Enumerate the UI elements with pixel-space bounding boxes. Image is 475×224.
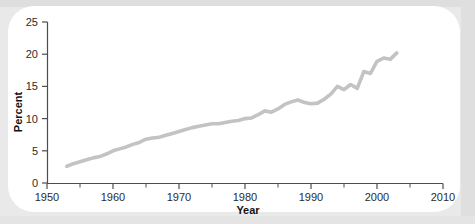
y-tick-label: 15 (26, 80, 38, 92)
line-chart: 0510152025 1950196019701980199020002010 … (0, 0, 475, 224)
y-tick-label: 10 (26, 113, 38, 125)
chart-svg: 0510152025 1950196019701980199020002010 … (0, 0, 475, 224)
y-tick-label: 25 (26, 16, 38, 28)
x-axis-title: Year (236, 204, 260, 216)
x-tick-label: 1960 (101, 191, 125, 203)
x-axis-ticks (47, 184, 443, 190)
y-axis-title: Percent (12, 91, 24, 132)
x-tick-label: 1950 (35, 191, 59, 203)
y-axis-ticks (42, 22, 48, 183)
x-tick-label: 1990 (299, 191, 323, 203)
y-tick-label: 0 (32, 177, 38, 189)
x-tick-label: 2000 (365, 191, 389, 203)
x-tick-label: 2010 (431, 191, 455, 203)
y-tick-label: 20 (26, 48, 38, 60)
x-tick-label: 1970 (167, 191, 191, 203)
y-axis-tick-labels: 0510152025 (26, 16, 38, 189)
data-series-line (67, 53, 397, 166)
x-axis-tick-labels: 1950196019701980199020002010 (35, 191, 455, 203)
y-tick-label: 5 (32, 145, 38, 157)
x-tick-label: 1980 (233, 191, 257, 203)
